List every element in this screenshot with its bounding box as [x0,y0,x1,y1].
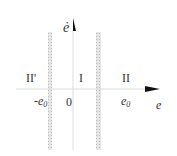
y-axis-arrow-icon [73,18,76,31]
y-axis-label: ė [63,22,69,34]
region-label-middle: I [79,72,83,84]
right-boundary-band [96,32,101,150]
region-label-right: II [122,72,130,84]
x-axis-arrow-icon [145,86,160,92]
tick-e0: e0 [121,95,130,111]
x-axis-label: e [156,99,161,111]
tick-neg-e0: -e0 [34,95,47,111]
region-label-left: II' [26,72,36,84]
left-boundary-band [48,32,52,150]
tick-origin: 0 [66,96,72,108]
phase-plane-diagram: II' I II -e0 0 e0 e ė [0,0,177,156]
